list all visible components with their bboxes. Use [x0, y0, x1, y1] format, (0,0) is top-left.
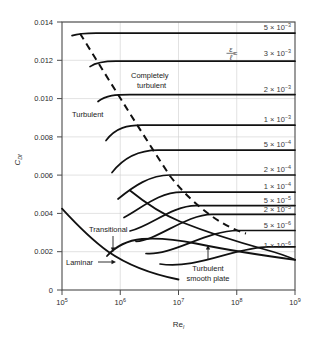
roughness-label-5e-4: 5 × 10−4 — [264, 139, 291, 149]
y-tick-label-0.012: 0.012 — [34, 56, 53, 65]
curve-2e-3 — [98, 95, 295, 102]
chart-figure: 0.014 0.012 0.010 0.008 0.006 0.004 0.00… — [0, 0, 315, 340]
curve-5e-3 — [72, 33, 295, 36]
roughness-label-2e-5: 2 × 10−5 — [264, 204, 291, 214]
annotation-turbulent: Turbulent — [72, 110, 104, 119]
x-tick-label-1e8: 108 — [231, 297, 242, 307]
y-tick-label-0.002: 0.002 — [34, 247, 53, 256]
annotation-transitional-label: Transitional — [89, 225, 128, 234]
roughness-label-1e-6: 1 × 10−6 — [264, 240, 291, 250]
y-axis-title: CDf — [13, 154, 23, 166]
roughness-label-5e-6: 5 × 10−6 — [264, 220, 291, 230]
annotation-completely-turbulent-line2: turbulent — [137, 81, 167, 90]
x-tick-label-1e7: 107 — [173, 297, 184, 307]
y-tick-label-0.006: 0.006 — [34, 171, 53, 180]
curve-1e-3 — [106, 125, 295, 140]
roughness-label-2e-4: 2 × 10−4 — [264, 164, 291, 174]
roughness-label-2e-3: 2 × 10−3 — [264, 84, 291, 94]
annotation-turbulent-smooth-plate-line1: Turbulent — [192, 264, 224, 273]
roughness-label-5e-3: 5 × 10−3 — [264, 22, 291, 32]
eps-ratio-denominator: ℓ — [229, 53, 233, 62]
y-tick-label-0.008: 0.008 — [34, 133, 53, 142]
x-tick-label-1e6: 106 — [115, 297, 126, 307]
grid-vertical — [120, 22, 237, 290]
annotation-laminar: Laminar — [66, 258, 116, 267]
y-tick-label-0: 0 — [49, 286, 53, 295]
x-tick-label-1e9: 109 — [289, 297, 300, 307]
annotation-completely-turbulent: Completely turbulent — [131, 71, 169, 90]
roughness-label-group: 5 × 10−3 3 × 10−3 = ε ℓ 2 × 10−3 1 × 10−… — [227, 22, 292, 250]
y-axis-ticks — [57, 22, 62, 290]
x-axis-title-sub: l — [183, 324, 185, 330]
roughness-label-5e-5: 5 × 10−5 — [264, 195, 291, 205]
laminar-arrowhead — [112, 260, 117, 264]
skin-friction-coefficient-chart: 0.014 0.012 0.010 0.008 0.006 0.004 0.00… — [0, 0, 315, 340]
annotation-laminar-label: Laminar — [66, 258, 94, 267]
svg-text:CDf: CDf — [13, 154, 23, 166]
annotation-turbulent-smooth-plate-line2: smooth plate — [187, 274, 230, 283]
y-tick-label-0.004: 0.004 — [34, 209, 53, 218]
roughness-label-1e-4: 1 × 10−4 — [264, 181, 291, 191]
curve-dashed-transition-locus — [80, 34, 246, 234]
x-axis-title-main: Re — [173, 320, 184, 329]
roughness-label-3e-3: 3 × 10−3 = ε ℓ — [227, 45, 292, 63]
annotation-transitional: Transitional — [89, 225, 128, 252]
y-axis-title-sub: Df — [17, 154, 23, 160]
annotation-turbulent-smooth-plate: Turbulent smooth plate — [187, 245, 230, 283]
curve-3e-3 — [90, 61, 295, 66]
annotation-completely-turbulent-line1: Completely — [131, 71, 169, 80]
y-tick-label-0.010: 0.010 — [34, 94, 53, 103]
x-tick-label-1e5: 105 — [56, 297, 67, 307]
x-axis-ticks — [62, 290, 295, 295]
x-axis-title: Rel — [173, 320, 185, 330]
svg-text:3 × 10−3: 3 × 10−3 — [264, 48, 291, 58]
y-tick-label-0.014: 0.014 — [34, 18, 53, 27]
roughness-label-1e-3: 1 × 10−3 — [264, 114, 291, 124]
